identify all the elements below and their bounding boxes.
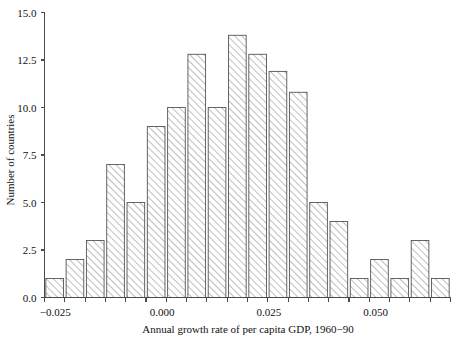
histogram-bar bbox=[86, 241, 104, 298]
x-tick-label: 0.050 bbox=[363, 306, 388, 318]
histogram-bar bbox=[391, 279, 409, 298]
histogram-bar bbox=[127, 203, 145, 298]
histogram-bar bbox=[46, 279, 64, 298]
histogram-bar bbox=[330, 222, 348, 298]
x-tick-label: 0.025 bbox=[256, 306, 281, 318]
histogram-bar bbox=[147, 127, 165, 298]
histogram-bar bbox=[208, 108, 226, 298]
histogram-bar bbox=[350, 279, 368, 298]
x-tick-label: −0.025 bbox=[40, 306, 71, 318]
histogram-bar bbox=[107, 165, 125, 298]
histogram-bar bbox=[432, 279, 450, 298]
y-axis-title: Number of countries bbox=[4, 114, 16, 205]
x-axis-title: Annual growth rate of per capita GDP, 19… bbox=[142, 323, 354, 335]
histogram-bar bbox=[168, 108, 186, 298]
y-tick-label: 2.5 bbox=[23, 244, 37, 256]
histogram-bar bbox=[371, 260, 389, 298]
axes-group bbox=[45, 13, 451, 298]
histogram-bar bbox=[310, 203, 328, 298]
y-tick-label: 0.0 bbox=[23, 292, 37, 304]
y-tick-label: 10.0 bbox=[17, 102, 37, 114]
histogram-bar bbox=[249, 54, 267, 297]
histogram-bar bbox=[229, 35, 247, 297]
x-tick-label: 0.000 bbox=[150, 306, 175, 318]
bars-group bbox=[46, 35, 449, 297]
y-tick-label: 5.0 bbox=[23, 197, 37, 209]
y-tick-label: 12.5 bbox=[17, 54, 37, 66]
histogram-chart: 0.02.55.07.510.012.515.0 −0.0250.0000.02… bbox=[0, 0, 456, 340]
histogram-bar bbox=[188, 54, 206, 297]
y-tick-label: 15.0 bbox=[17, 7, 37, 19]
y-axis-ticks: 0.02.55.07.510.012.515.0 bbox=[17, 7, 44, 304]
histogram-bar bbox=[411, 241, 429, 298]
histogram-bar bbox=[66, 260, 84, 298]
histogram-bar bbox=[289, 92, 307, 297]
y-tick-label: 7.5 bbox=[23, 149, 37, 161]
histogram-svg: 0.02.55.07.510.012.515.0 −0.0250.0000.02… bbox=[0, 0, 456, 340]
histogram-bar bbox=[269, 71, 287, 297]
x-axis-ticks: −0.0250.0000.0250.050 bbox=[40, 298, 451, 318]
